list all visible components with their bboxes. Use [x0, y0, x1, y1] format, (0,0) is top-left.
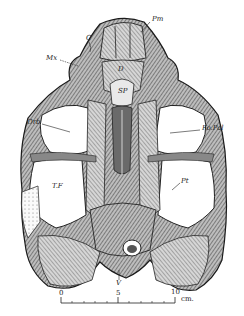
scale-tick-0: 0 — [59, 290, 63, 297]
orbit-left — [40, 105, 92, 154]
label-canine: C — [86, 35, 91, 42]
label-v: V — [116, 280, 121, 287]
scale-unit: cm. — [181, 296, 194, 303]
label-secondary-palate: SP — [118, 88, 128, 95]
label-palatal-foramen: Fo.Pal — [202, 125, 224, 132]
scale-tick-10: 10 — [171, 289, 180, 296]
scale-bar — [61, 297, 175, 303]
label-orbit: Orb — [27, 119, 41, 126]
label-pterygoid: Pt — [181, 178, 189, 185]
label-premaxilla: Pm — [152, 16, 163, 23]
label-maxilla: Mx — [46, 55, 57, 62]
label-d: D — [118, 66, 124, 73]
skull-illustration: Pm C Mx D SP Orb Fo.Pal T.F Pt V 0 5 10 … — [0, 0, 244, 316]
skull-drawing — [0, 0, 244, 316]
orbit-right — [154, 105, 206, 154]
premaxilla — [100, 22, 146, 61]
scale-tick-5: 5 — [116, 290, 120, 297]
label-temporal-fossa: T.F — [52, 183, 63, 190]
